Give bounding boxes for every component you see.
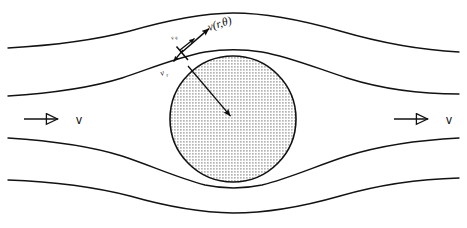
streamline-outer-bottom	[8, 178, 459, 213]
velocity-vector-group	[174, 29, 210, 62]
streamline-outer-top	[8, 13, 459, 52]
diagram-canvas: v(r,θ) v r v θ v v	[0, 0, 467, 228]
freestream-left-label: v	[76, 113, 82, 127]
velocity-vector-total	[181, 29, 209, 53]
radial-velocity-sub: r	[165, 71, 170, 78]
tangential-velocity-sub: θ	[174, 35, 179, 41]
velocity-vector-radial	[174, 50, 184, 62]
velocity-field-label: v(r,θ)	[206, 14, 233, 34]
sphere-group	[170, 56, 296, 182]
sphere-body	[170, 56, 296, 182]
tangential-velocity-label-group: v θ	[170, 33, 179, 43]
radial-velocity-label-group: v r	[159, 66, 170, 79]
flow-past-sphere-figure: v(r,θ) v r v θ v v	[0, 0, 467, 228]
freestream-right-label: v	[446, 113, 452, 127]
